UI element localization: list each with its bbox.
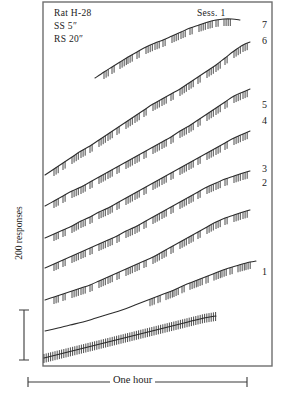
subject-label: Rat H-28 (54, 8, 92, 18)
x-axis-label: One hour (110, 374, 155, 385)
cumulative-record-figure: 7654321 (0, 0, 283, 401)
curve-number-label-4: 4 (262, 115, 267, 126)
curve-number-label-7: 7 (262, 19, 267, 30)
curve-number-label-1: 1 (262, 266, 267, 277)
ss-parameter-label: SS 5″ (54, 21, 77, 31)
curve-number-label-2: 2 (262, 177, 267, 188)
curve-number-label-5: 5 (262, 99, 267, 110)
curve-number-label-3: 3 (262, 163, 267, 174)
y-axis-label: 200 responses (14, 196, 24, 270)
rs-parameter-label: RS 20″ (54, 34, 83, 44)
session-label: Sess. 1 (197, 8, 226, 18)
curve-number-label-6: 6 (262, 35, 267, 46)
